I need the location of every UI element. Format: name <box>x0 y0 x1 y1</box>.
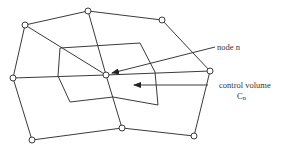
edge-center-right <box>106 71 210 75</box>
edge-topright-right <box>162 20 210 71</box>
node-bottom-right <box>191 133 197 139</box>
control-volume-symbol: Cn <box>237 91 247 101</box>
node-right <box>207 68 213 74</box>
node-bottom-left <box>29 137 35 143</box>
mesh-nodes <box>10 8 213 143</box>
mesh-diagram: node n control volume Cn <box>0 0 285 153</box>
edge-left-topleft <box>13 25 25 78</box>
edge-topleft-topmiddle <box>25 11 88 25</box>
edge-center-left <box>13 75 106 78</box>
node-n-label: node n <box>217 42 241 52</box>
edge-topmiddle-topright <box>88 11 162 20</box>
node-bottom-middle <box>119 125 125 131</box>
node-top-middle <box>85 8 91 14</box>
mesh-edges <box>13 11 210 140</box>
edge-bottomleft-left <box>13 78 32 140</box>
control-volume-label: control volume <box>219 80 271 90</box>
edge-center-bottommiddle <box>106 75 122 128</box>
node-left <box>10 75 16 81</box>
edge-bottommiddle-bottomleft <box>32 128 122 140</box>
edge-bottomright-bottommiddle <box>122 128 194 136</box>
node-top-right <box>159 17 165 23</box>
node-top-left <box>22 22 28 28</box>
control-volume-symbol-subscript: n <box>243 94 247 101</box>
node-center-n <box>103 72 109 78</box>
edge-right-bottomright <box>194 71 210 136</box>
